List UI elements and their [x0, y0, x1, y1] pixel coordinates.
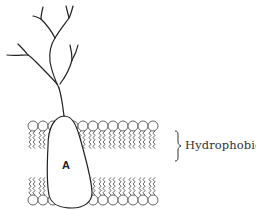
hydrophobic-label: Hydrophobic: [185, 138, 256, 152]
membrane-diagram: [0, 0, 256, 210]
hydrophobic-brace: [175, 131, 181, 161]
lipid-heads-bottom: [28, 195, 158, 205]
lipid-heads-top: [28, 121, 158, 131]
branched-chain: [7, 6, 78, 116]
protein-label: A: [62, 159, 70, 171]
